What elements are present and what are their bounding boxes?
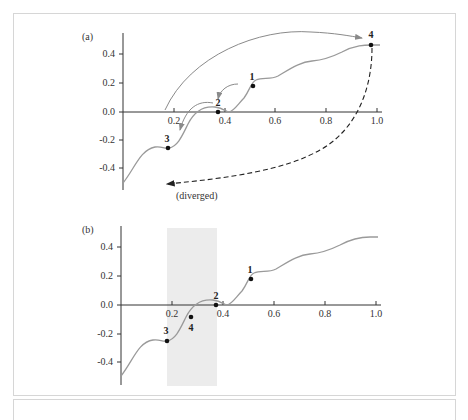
iterate-label-1: 1	[250, 71, 255, 82]
iterate-point-3	[166, 146, 171, 151]
x-tick-label: 0.4	[219, 115, 232, 126]
iterate-point-1	[249, 277, 254, 282]
iterate-label-2: 2	[216, 97, 221, 108]
x-tick-label: 0.6	[268, 308, 281, 319]
iterate-label-3: 3	[165, 133, 170, 144]
function-curve	[121, 237, 378, 376]
iteration-arrow-1-2	[218, 84, 238, 99]
y-tick-label: 0.4	[103, 48, 116, 59]
y-tick-label: -0.4	[97, 356, 113, 367]
x-tick-label: 0.4	[217, 308, 230, 319]
x-tick-label: 0.8	[320, 115, 333, 126]
iterate-point-3	[165, 339, 170, 344]
y-tick-label: -0.4	[99, 162, 115, 173]
y-tick-label: -0.2	[97, 328, 113, 339]
y-tick-label: 0.4	[101, 241, 114, 252]
iterate-label-3: 3	[164, 325, 169, 336]
y-tick-label: 0.2	[103, 77, 116, 88]
y-ticks: 0.4 0.2 0.0 -0.2 -0.4	[99, 48, 123, 173]
iteration-arrow-3-4	[165, 32, 362, 110]
y-ticks: 0.4 0.2 0.0 -0.2 -0.4	[97, 241, 121, 367]
iterate-label-2: 2	[214, 290, 219, 301]
x-tick-label: 0.2	[168, 115, 181, 126]
iterate-point-1	[251, 84, 256, 89]
y-tick-label: 0.2	[101, 270, 114, 281]
x-tick-label: 1.0	[370, 308, 383, 319]
iterate-label-4: 4	[189, 322, 194, 333]
diverged-annotation: (diverged)	[176, 190, 217, 202]
function-curve	[123, 45, 380, 183]
iterate-point-2	[214, 303, 219, 308]
bracket-shaded-region	[167, 228, 217, 386]
panel-b-label: (b)	[82, 224, 94, 236]
iterate-point-2	[216, 110, 221, 115]
iterate-label-4: 4	[369, 29, 374, 40]
y-tick-label: 0.0	[103, 106, 116, 117]
iterate-point-4	[189, 315, 194, 320]
panel-b: (b) 0.4 0.2 0.0 -0.2 -0.4 0.2 0.4 0.6	[82, 224, 382, 386]
y-tick-label: -0.2	[99, 134, 115, 145]
iterate-label-1: 1	[248, 264, 253, 275]
panel-a-label: (a)	[82, 31, 93, 43]
x-tick-label: 1.0	[371, 115, 384, 126]
x-tick-label: 0.8	[319, 308, 332, 319]
x-tick-label: 0.2	[166, 308, 179, 319]
panel-a: (a) 0.4 0.2 0.0 -0.2 -0.4 0.2 0.4 0.6	[82, 29, 383, 202]
iterate-point-4	[369, 43, 374, 48]
x-tick-label: 0.6	[269, 115, 282, 126]
y-tick-label: 0.0	[101, 299, 114, 310]
